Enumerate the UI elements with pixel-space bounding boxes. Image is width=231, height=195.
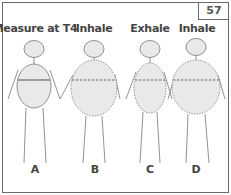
letter-d: D <box>191 163 200 176</box>
figure-b <box>60 41 120 164</box>
head-icon <box>140 41 160 58</box>
head-icon <box>24 41 44 58</box>
torso-shape <box>71 60 117 116</box>
figure-d <box>168 39 225 164</box>
figure-c <box>126 41 172 164</box>
torso-shape <box>134 63 166 113</box>
head-icon <box>84 41 104 58</box>
torso-shape <box>17 64 51 108</box>
letter-a: A <box>31 163 40 176</box>
figure-a <box>8 41 60 164</box>
torso-shape <box>172 60 220 114</box>
letter-c: C <box>146 163 154 176</box>
head-icon <box>186 39 206 56</box>
letter-b: B <box>91 163 99 176</box>
